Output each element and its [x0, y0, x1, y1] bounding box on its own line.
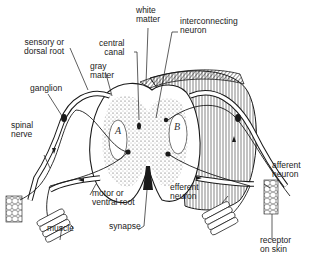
- label-muscle: muscle: [47, 224, 74, 233]
- label-sensory-root: sensory or dorsal root: [24, 38, 64, 56]
- left-skin-receptor: [6, 196, 22, 222]
- label-region-a: A: [115, 126, 121, 135]
- label-gray-matter: gray matter: [90, 62, 114, 80]
- right-ganglion-node: [235, 114, 241, 122]
- label-efferent-neuron: efferent neuron: [170, 183, 199, 201]
- label-central-canal: central canal: [99, 39, 125, 57]
- label-receptor-on-skin: receptor on skin: [260, 236, 291, 254]
- label-spinal-nerve: spinal nerve: [11, 121, 33, 139]
- label-afferent-neuron: afferent neuron: [272, 161, 301, 179]
- label-white-matter: white matter: [136, 6, 160, 24]
- label-synapse: synapse: [109, 222, 141, 231]
- label-ganglion: ganglion: [30, 84, 62, 93]
- label-interconnecting-neuron: interconnecting neuron: [180, 17, 238, 35]
- label-region-b: B: [174, 122, 180, 131]
- label-motor-root: motor or ventral root: [92, 189, 135, 207]
